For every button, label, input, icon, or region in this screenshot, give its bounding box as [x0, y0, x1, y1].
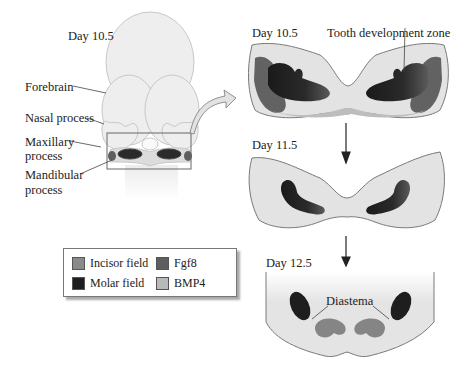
nasal-process-label: Nasal process	[25, 111, 94, 125]
panel-day-10-5	[248, 28, 448, 118]
legend-item-bmp4: BMP4	[156, 276, 205, 291]
diastema-label: Diastema	[326, 294, 373, 308]
diagram-canvas	[0, 0, 465, 375]
embryo-head-illustration	[102, 12, 199, 200]
panel2-day-label: Day 11.5	[252, 138, 297, 152]
panel1-day-label: Day 10.5	[252, 26, 298, 40]
panel-day-12-5	[266, 272, 434, 357]
legend-item-molar-field: Molar field	[72, 276, 144, 291]
panel-day-11-5	[249, 152, 444, 228]
progression-arrows	[342, 123, 350, 266]
left-day-label: Day 10.5	[68, 29, 114, 43]
fgf8-swatch	[156, 257, 169, 270]
legend-label: BMP4	[174, 276, 205, 291]
legend-label: Incisor field	[90, 256, 148, 271]
maxillary-process-label-line2: process	[25, 149, 63, 163]
legend: Incisor field Fgf8 Molar field BMP4	[63, 248, 237, 297]
molar-field-swatch	[72, 277, 85, 290]
panel3-day-label: Day 12.5	[266, 256, 312, 270]
maxillary-process-label-line1: Maxillary	[25, 135, 74, 149]
bmp4-swatch	[156, 277, 169, 290]
legend-label: Molar field	[90, 276, 144, 291]
incisor-field-swatch	[72, 257, 85, 270]
legend-item-fgf8: Fgf8	[156, 256, 197, 271]
forebrain-label: Forebrain	[25, 80, 74, 94]
mandibular-process-label-line1: Mandibular	[25, 168, 83, 182]
legend-item-incisor-field: Incisor field	[72, 256, 148, 271]
mandibular-process-label-line2: process	[25, 183, 63, 197]
legend-label: Fgf8	[174, 256, 197, 271]
tooth-development-zone-label: Tooth development zone	[327, 26, 450, 40]
